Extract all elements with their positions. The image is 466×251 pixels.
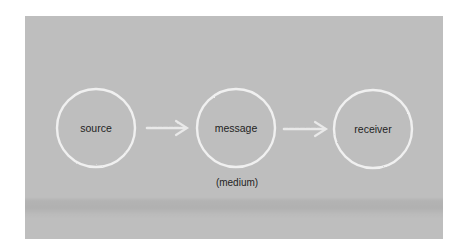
message-node-label: message (191, 122, 281, 134)
arrow-message-to-receiver (284, 122, 326, 136)
arrow-source-to-message (147, 121, 187, 135)
message-node-sublabel: (medium) (192, 177, 282, 189)
receiver-node-label: receiver (328, 123, 418, 135)
source-node-label: source (51, 122, 141, 134)
